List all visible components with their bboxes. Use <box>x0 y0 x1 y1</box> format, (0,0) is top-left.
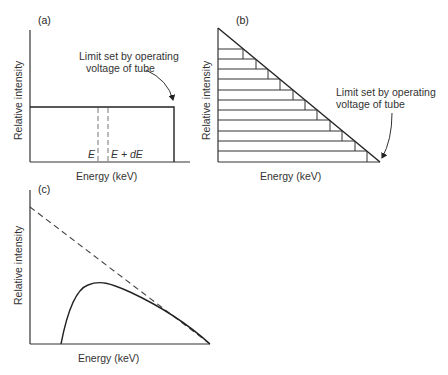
panel-c: (c) Relative intensity Energy (keV) <box>12 183 210 364</box>
panel-b-y-label: Relative intensity <box>200 60 212 140</box>
panel-a-y-label: Relative intensity <box>12 60 24 140</box>
panel-a-e-de-label: E + dE <box>111 148 144 160</box>
panel-c-unfiltered-dashed-line <box>30 207 210 344</box>
panel-b-annotation-arrow-icon <box>382 113 392 158</box>
panel-b-label: (b) <box>236 14 249 26</box>
panel-b-x-label: Energy (keV) <box>260 170 321 182</box>
panel-a-label: (a) <box>38 14 51 26</box>
panel-a-annotation-line2: voltage of tube <box>86 62 155 74</box>
panel-a-x-label: Energy (keV) <box>76 170 137 182</box>
figure-canvas: (a) E E + dE Limit set by operating volt… <box>0 0 448 375</box>
panel-b: (b) Limit set by operating voltage of tu… <box>200 14 436 182</box>
panel-c-x-label: Energy (keV) <box>78 352 139 364</box>
panel-a: (a) E E + dE Limit set by operating volt… <box>12 14 190 182</box>
panel-c-label: (c) <box>38 183 50 195</box>
panel-a-e-label: E <box>88 148 96 160</box>
panel-a-flat-spectrum <box>30 107 174 162</box>
panel-a-annotation-arrow-icon <box>146 70 173 100</box>
panel-b-annotation-line1: Limit set by operating <box>336 86 436 98</box>
panel-a-annotation-line1: Limit set by operating <box>79 50 179 62</box>
panel-b-annotation-line2: voltage of tube <box>336 98 405 110</box>
panel-c-observed-curve <box>61 283 210 344</box>
panel-c-y-label: Relative intensity <box>12 225 24 305</box>
